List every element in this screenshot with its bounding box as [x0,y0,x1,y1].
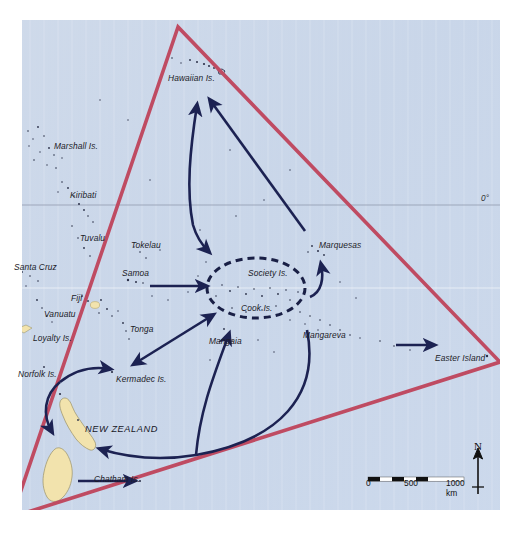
map-label-kiribati: Kiribati [70,190,96,200]
map-label-samoa: Samoa [122,268,149,278]
compass-rose: N [466,440,494,500]
map-label-easter-island: Easter Island [435,353,485,363]
scale-tick-500: 500 [404,478,418,488]
equator-label: 0° [481,194,489,203]
map-label-chatham-is: Chatham Is. [94,474,140,484]
map-label-society-is: Society Is. [248,268,288,278]
scale-bar: 0 500 1000 km [368,477,478,490]
map-label-mangaia: Mangaia [209,336,242,346]
scale-tick-0: 0 [366,478,371,488]
map-label-tokelau: Tokelau [131,240,161,250]
map-label-new-zealand: NEW ZEALAND [85,424,158,434]
north-label: N [474,440,482,452]
map-label-mangareva: Mangareva [303,330,346,340]
map-label-santa-cruz: Santa Cruz [14,262,57,272]
map-label-kermadec-is: Kermadec Is. [116,374,167,384]
map-label-marshall-is: Marshall Is. [54,141,98,151]
map-label-vanuatu: Vanuatu [44,309,76,319]
map-label-tonga: Tonga [130,324,153,334]
map-label-hawaiian-is: Hawaiian Is. [168,73,215,83]
map-label-cook-is: Cook Is. [241,303,273,313]
map-label-fiji: Fiji [71,293,82,303]
map-root: Hawaiian Is.Marshall Is.KiribatiTuvaluTo… [0,0,519,537]
map-label-marquesas: Marquesas [319,240,361,250]
fiji-island-shape [90,302,99,309]
map-label-loyalty-is: Loyalty Is. [33,333,72,343]
map-label-norfolk-is: Norfolk Is. [18,369,57,379]
map-label-tuvalu: Tuvalu [80,233,105,243]
